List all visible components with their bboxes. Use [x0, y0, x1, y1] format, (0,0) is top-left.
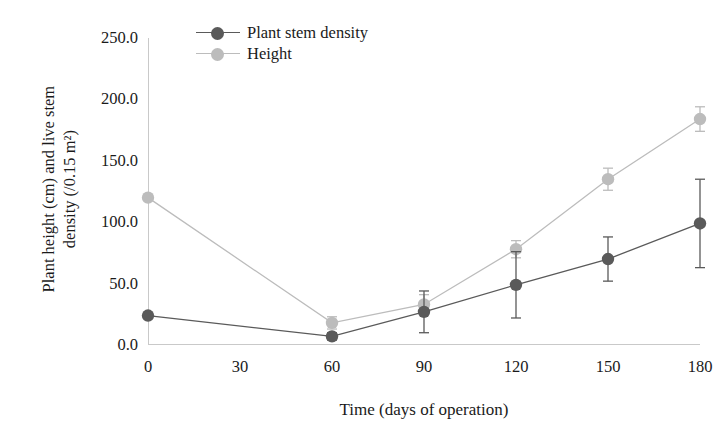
- legend-label-plant-stem-density: Plant stem density: [247, 23, 368, 43]
- chart-figure: Plant height (cm) and live stem density …: [0, 0, 724, 442]
- x-tick-label: 150: [596, 357, 621, 377]
- x-tick-label: 0: [144, 357, 152, 377]
- x-tick-label: 60: [324, 357, 341, 377]
- x-tick-label: 120: [504, 357, 529, 377]
- legend-marker-height: [196, 46, 240, 62]
- legend-dot: [211, 27, 224, 40]
- x-tick-label: 180: [688, 357, 713, 377]
- series-plant-stem-density: [142, 179, 706, 342]
- x-tick-label: 30: [232, 357, 249, 377]
- legend-marker-plant-stem-density: [196, 25, 240, 41]
- legend-dot: [211, 48, 224, 61]
- plot-area: [148, 38, 700, 345]
- legend-item-height: Height: [196, 43, 368, 64]
- data-series-layer: [148, 38, 700, 345]
- x-tick-label: 90: [416, 357, 433, 377]
- x-axis-title: Time (days of operation): [148, 400, 700, 420]
- legend-item-plant-stem-density: Plant stem density: [196, 22, 368, 43]
- legend-label-height: Height: [247, 44, 292, 64]
- chart-legend: Plant stem density Height: [196, 22, 368, 64]
